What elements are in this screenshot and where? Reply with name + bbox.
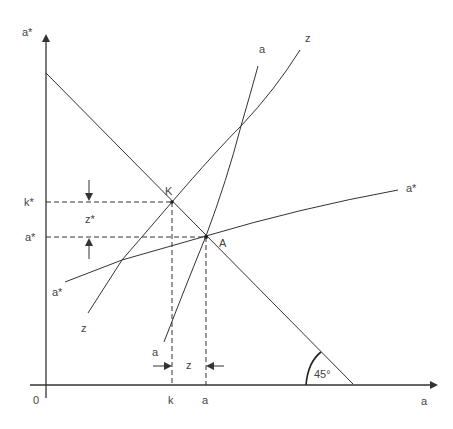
diagram-canvas: a* a 0 a z z a* a* K A k* a* z* k a z a …: [0, 0, 453, 429]
a-curve: [164, 66, 258, 342]
a-star-curve-label-left: a*: [52, 287, 62, 298]
k-tick-label: k: [168, 395, 174, 406]
a-tick-label: a: [202, 395, 208, 406]
z-curve: [88, 50, 300, 313]
z-curve-label-top: z: [305, 33, 311, 44]
k-star-tick-label: k*: [24, 197, 34, 208]
angle-label: 45°: [314, 369, 331, 380]
point-K-label: K: [165, 186, 172, 197]
z-curve-label-bottom: z: [81, 323, 87, 334]
a-star-tick-label: a*: [25, 232, 35, 243]
point-K: [170, 200, 174, 204]
y-axis-label: a*: [22, 27, 32, 38]
point-A: [204, 235, 208, 239]
origin-label: 0: [33, 395, 39, 406]
x-axis-label: a: [421, 396, 427, 407]
a-curve-label: a: [259, 44, 265, 55]
point-A-label: A: [219, 238, 226, 249]
a-star-curve-label-right: a*: [406, 183, 416, 194]
z-gap-label: z: [186, 360, 192, 371]
z-star-gap-label: z*: [85, 214, 95, 225]
diagonal-line: [46, 73, 353, 384]
a-small-label: a: [152, 347, 158, 358]
diagram-svg: [0, 0, 453, 429]
a-star-curve: [65, 190, 398, 282]
